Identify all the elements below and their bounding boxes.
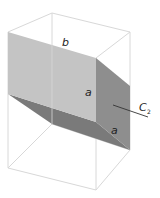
diagram-canvas: b a a C 2 <box>0 0 160 198</box>
label-a-vertical: a <box>85 86 92 99</box>
label-c: C <box>139 101 147 114</box>
label-c-subscript: 2 <box>147 108 151 115</box>
label-a-bottom: a <box>111 124 118 137</box>
label-b: b <box>62 36 69 49</box>
